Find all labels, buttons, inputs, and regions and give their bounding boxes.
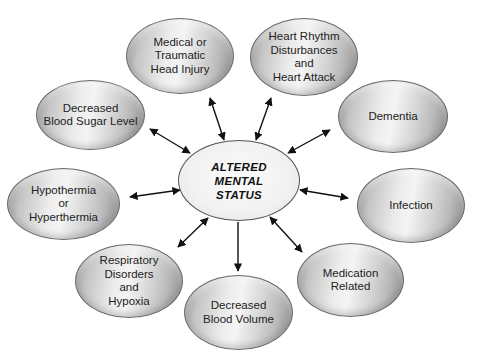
node-heart: Heart Rhythm Disturbances and Heart Atta…: [250, 18, 358, 96]
arrow-temperature: [130, 190, 180, 197]
node-blood-volume: Decreased Blood Volume: [184, 275, 293, 350]
arrow-respiratory: [178, 218, 208, 247]
node-label: Dementia: [368, 110, 417, 124]
node-label: Infection: [389, 199, 432, 213]
node-label: Medical or Traumatic Head Injury: [151, 36, 210, 77]
node-medication: Medication Related: [297, 243, 404, 317]
arrow-dementia: [288, 130, 330, 153]
node-label: Decreased Blood Volume: [203, 299, 274, 326]
node-dementia: Dementia: [338, 80, 448, 153]
node-label: Respiratory Disorders and Hypoxia: [100, 254, 159, 308]
node-label: Heart Rhythm Disturbances and Heart Atta…: [269, 30, 340, 84]
node-respiratory: Respiratory Disorders and Hypoxia: [75, 244, 183, 318]
node-infection: Infection: [357, 168, 465, 243]
arrow-heart: [256, 98, 271, 140]
node-label: Medication Related: [323, 267, 379, 294]
node-label: Decreased Blood Sugar Level: [44, 102, 138, 129]
arrow-head-injury: [210, 98, 224, 140]
node-label: Hypothermia or Hyperthermia: [29, 184, 98, 225]
node-head-injury: Medical or Traumatic Head Injury: [126, 18, 234, 94]
arrow-infection: [300, 190, 348, 198]
center-node-altered-mental-status: ALTERED MENTAL STATUS: [178, 140, 300, 221]
arrow-medication: [270, 217, 302, 252]
node-temperature: Hypothermia or Hyperthermia: [7, 168, 120, 240]
arrow-blood-sugar: [150, 129, 190, 153]
node-blood-sugar: Decreased Blood Sugar Level: [36, 80, 145, 150]
center-label: ALTERED MENTAL STATUS: [211, 160, 267, 202]
